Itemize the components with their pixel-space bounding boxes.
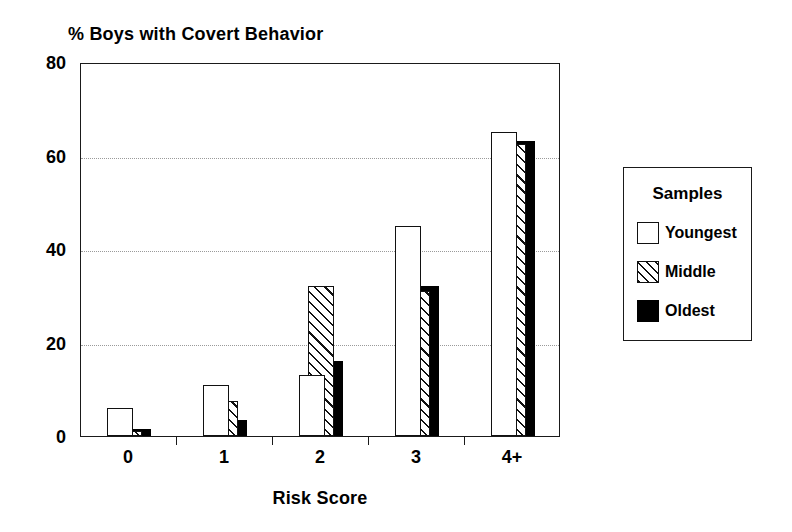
chart-canvas: % Boys with Covert Behavior 020406080 01… [0, 0, 792, 532]
legend-item-label: Youngest [665, 224, 737, 242]
bar-youngest-0 [107, 408, 133, 436]
bar-series-layer [81, 64, 559, 436]
bar-group [81, 64, 177, 436]
bar-youngest-1 [203, 385, 229, 436]
legend-item-oldest[interactable]: Oldest [637, 294, 745, 328]
x-axis-tick-label: 2 [315, 447, 325, 468]
x-axis-tick-labels: 01234+ [80, 447, 560, 475]
y-axis-tick-label: 40 [46, 240, 66, 261]
y-axis-tick-label: 60 [46, 146, 66, 167]
x-axis-tick-label: 4+ [502, 447, 523, 468]
legend-item-middle[interactable]: Middle [637, 255, 745, 289]
legend-title: Samples [624, 184, 751, 204]
plot-area [80, 63, 560, 437]
bar-group [465, 64, 561, 436]
legend-items: YoungestMiddleOldest [637, 216, 745, 333]
y-axis-tick-label: 0 [56, 427, 66, 448]
x-axis-tick-label: 1 [219, 447, 229, 468]
bar-group [273, 64, 369, 436]
x-axis-tick-marks [80, 437, 560, 447]
x-axis-tick-label: 3 [411, 447, 421, 468]
y-axis-tick-label: 80 [46, 53, 66, 74]
white-square-icon [637, 222, 659, 244]
hatched-square-icon [637, 261, 659, 283]
x-axis-tick-label: 0 [123, 447, 133, 468]
x-axis-title: Risk Score [80, 488, 560, 509]
bar-youngest-2 [299, 375, 325, 436]
bar-group [369, 64, 465, 436]
legend-item-label: Middle [665, 263, 716, 281]
legend-item-youngest[interactable]: Youngest [637, 216, 745, 250]
x-axis-tick-mark [368, 437, 369, 445]
legend-item-label: Oldest [665, 302, 715, 320]
x-axis-tick-mark [272, 437, 273, 445]
bar-youngest-4plus [491, 132, 517, 436]
bar-youngest-3 [395, 226, 421, 436]
x-axis-tick-mark [464, 437, 465, 445]
chart-title: % Boys with Covert Behavior [68, 24, 323, 45]
bar-group [177, 64, 273, 436]
y-axis-tick-label: 20 [46, 333, 66, 354]
black-square-icon [637, 300, 659, 322]
legend: Samples YoungestMiddleOldest [623, 167, 752, 341]
y-axis: 020406080 [24, 63, 74, 437]
x-axis-tick-mark [176, 437, 177, 445]
